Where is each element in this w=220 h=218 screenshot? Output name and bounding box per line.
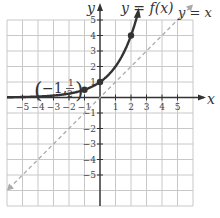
- svg-text:−3: −3: [47, 102, 61, 112]
- svg-text:1: 1: [113, 102, 119, 112]
- function-graph: −5−4−3−2−11234554321−1−2−3−4−5 y = f(x) …: [0, 0, 220, 218]
- svg-text:4: 4: [90, 31, 96, 41]
- data-point: [97, 79, 103, 85]
- svg-text:−3: −3: [83, 139, 97, 149]
- svg-text:−2: −2: [62, 102, 75, 112]
- y-axis-arrow-icon: [97, 3, 103, 11]
- identity-arrow-icon: [7, 184, 14, 191]
- svg-text:−5: −5: [83, 170, 97, 180]
- svg-text:−1,: −1,: [42, 80, 67, 96]
- svg-text:2: 2: [90, 62, 96, 72]
- svg-text:3: 3: [90, 46, 96, 56]
- svg-text:5: 5: [90, 15, 96, 25]
- svg-text:1: 1: [68, 78, 74, 88]
- svg-text:): ): [75, 78, 84, 103]
- svg-text:2: 2: [128, 102, 134, 112]
- identity-label-text: y = x: [177, 5, 213, 20]
- y-axis-label: y: [86, 0, 96, 16]
- curve-label-text: y = f(x): [120, 0, 174, 16]
- plotted-points: [81, 32, 134, 93]
- svg-text:−4: −4: [83, 155, 97, 165]
- svg-text:5: 5: [175, 102, 181, 112]
- svg-text:4: 4: [159, 102, 165, 112]
- svg-text:−5: −5: [16, 102, 30, 112]
- svg-text:2: 2: [67, 89, 73, 99]
- svg-text:3: 3: [144, 102, 150, 112]
- data-point: [128, 32, 134, 38]
- svg-text:−4: −4: [31, 102, 45, 112]
- x-axis-label: x: [207, 91, 215, 107]
- point-annotation: ( −1, 1 2 ): [34, 78, 84, 103]
- svg-text:−2: −2: [83, 124, 96, 134]
- x-axis-arrow-icon: [198, 95, 206, 101]
